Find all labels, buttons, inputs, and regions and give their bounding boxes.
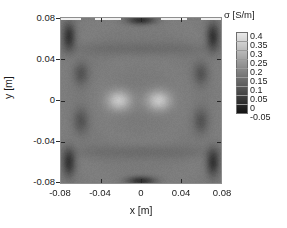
conductivity-figure: 0.08 0.04 0 -0.04 -0.08 y [m] -0.08 -0.0 [0, 0, 287, 228]
y-tick-label: -0.08 [11, 177, 55, 187]
colorbar-tick [236, 68, 248, 69]
y-tick-mark [56, 100, 60, 101]
colorbar-tick [236, 104, 248, 105]
colorbar [236, 32, 248, 114]
tick-bottom [141, 179, 142, 183]
y-tick-label: 0.04 [11, 54, 55, 64]
colorbar-tick [236, 50, 248, 51]
colorbar-tick [236, 86, 248, 87]
y-tick-mark [56, 182, 60, 183]
x-tick-label: 0.04 [158, 188, 204, 198]
tick-inner-top [161, 18, 187, 20]
colorbar-tick [236, 95, 248, 96]
x-tick-label: -0.04 [77, 188, 123, 198]
colorbar-title: σ [S/m] [224, 9, 255, 20]
colorbar-tick [236, 41, 248, 42]
y-tick-mark [56, 141, 60, 142]
y-tick-mark [56, 59, 60, 60]
plot-area [60, 17, 222, 184]
tick-left [61, 142, 65, 143]
tick-bottom [101, 179, 102, 183]
tick-top [101, 18, 102, 22]
colorbar-tick [236, 77, 248, 78]
y-tick-label: 0.08 [11, 13, 55, 23]
tick-top [141, 18, 142, 22]
colorbar-gradient [236, 32, 248, 114]
tick-right [217, 101, 221, 102]
tick-bottom [181, 179, 182, 183]
tick-left [61, 59, 65, 60]
tick-inner-top [201, 18, 221, 20]
x-axis-title: x [m] [60, 204, 222, 216]
tick-right [217, 142, 221, 143]
colorbar-tick [236, 59, 248, 60]
conductivity-heatmap [61, 18, 221, 183]
y-tick-label: -0.04 [11, 136, 55, 146]
tick-inner-top [61, 18, 81, 20]
tick-right [217, 59, 221, 60]
tick-inner-top [95, 18, 121, 20]
y-tick-label: 0 [11, 95, 55, 105]
tick-left [61, 101, 65, 102]
y-axis-title: y [m] [2, 85, 14, 99]
colorbar-tick-label: -0.05 [250, 113, 271, 122]
tick-top [181, 18, 182, 22]
x-tick-label: 0.08 [199, 188, 245, 198]
y-tick-mark [56, 18, 60, 19]
